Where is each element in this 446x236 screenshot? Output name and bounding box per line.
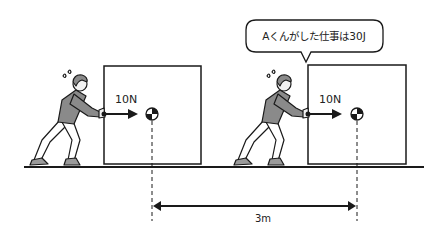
distance-label: 3m [255, 213, 271, 224]
person-pushing-end [234, 70, 309, 165]
force-label-start: 10N [115, 93, 137, 106]
work-diagram: 10N 10N 3m Aくんがした仕事は30J [0, 0, 446, 236]
center-of-mass-icon [351, 108, 363, 120]
distance-arrow [153, 201, 356, 211]
person-pushing-start [30, 70, 105, 165]
speech-bubble-text: Aくんがした仕事は30J [262, 30, 366, 42]
force-label-end: 10N [319, 93, 341, 106]
center-of-mass-icon [146, 108, 158, 120]
